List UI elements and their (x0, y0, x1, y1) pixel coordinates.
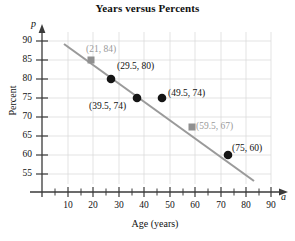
x-tick-label-90: 90 (260, 200, 282, 210)
trend-line (64, 44, 254, 181)
y-tick-label-55: 55 (10, 168, 32, 178)
point-label-21-84: (21, 84) (86, 44, 116, 54)
y-axis (36, 24, 48, 197)
y-tick-label-60: 60 (10, 149, 32, 159)
y-tick-label-80: 80 (10, 73, 32, 83)
x-tick-label-10: 10 (57, 200, 79, 210)
x-tick-label-40: 40 (133, 200, 155, 210)
x-tick-label-60: 60 (184, 200, 206, 210)
y-tick-label-65: 65 (10, 130, 32, 140)
y-tick-label-90: 90 (10, 35, 32, 45)
y-tick-label-75: 75 (10, 92, 32, 102)
x-tick-label-80: 80 (235, 200, 257, 210)
point-label-29-5-80: (29.5, 80) (117, 61, 154, 71)
point-label-75-60: (75, 60) (232, 143, 262, 153)
grid-lines-horizontal (42, 41, 271, 174)
x-tick-label-20: 20 (82, 200, 104, 210)
x-tick-label-70: 70 (210, 200, 232, 210)
point-label-49-5-74: (49.5, 74) (168, 88, 205, 98)
y-tick-label-70: 70 (10, 111, 32, 121)
x-axis-label: Age (years) (40, 218, 270, 229)
y-axis-variable: p (31, 18, 36, 29)
y-axis-arrow (39, 24, 46, 33)
data-point-29-5-80[interactable] (107, 75, 116, 84)
point-label-39-5-74: (39.5, 74) (89, 101, 126, 111)
x-axis (30, 187, 288, 197)
data-point-21-84[interactable] (88, 57, 95, 64)
chart-figure: Years versus Percents (0, 0, 295, 241)
data-point-59-5-67[interactable] (189, 124, 196, 131)
x-tick-label-50: 50 (159, 200, 181, 210)
data-point-39-5-74[interactable] (133, 94, 142, 103)
x-tick-label-30: 30 (108, 200, 130, 210)
y-tick-label-85: 85 (10, 54, 32, 64)
data-point-75-60[interactable] (224, 151, 233, 160)
point-label-59-5-67: (59.5, 67) (196, 121, 233, 131)
data-point-49-5-74[interactable] (158, 94, 167, 103)
